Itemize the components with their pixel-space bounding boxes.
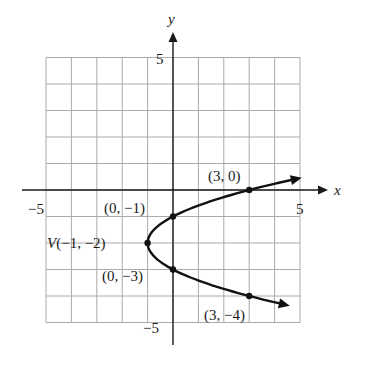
point-3-m4 [246, 293, 252, 299]
x-tick-min: −5 [28, 201, 44, 217]
label-3-0: (3, 0) [208, 168, 241, 185]
x-axis-label: x [333, 182, 341, 198]
x-axis-arrow-icon [318, 186, 328, 195]
vertex-coords: (−1, −2) [56, 235, 105, 252]
point-3-0 [246, 187, 252, 193]
y-axis-arrow-icon [169, 32, 178, 42]
y-tick-min: −5 [143, 320, 159, 336]
y-axis-label: y [166, 11, 175, 27]
parabola-chart: x y −5 5 5 −5 (3, 0) (0, −1) V(−1, −2) (… [0, 0, 365, 376]
point-0-m1 [170, 213, 176, 219]
label-0-m1: (0, −1) [104, 200, 145, 217]
x-tick-max: 5 [296, 201, 304, 217]
label-vertex: V(−1, −2) [47, 235, 106, 252]
curve-lower-arrow-icon [278, 298, 290, 308]
label-0-m3: (0, −3) [102, 268, 143, 285]
point-0-m3 [170, 266, 176, 272]
axes [22, 42, 320, 345]
label-3-m4: (3, −4) [204, 307, 245, 324]
y-tick-max: 5 [156, 51, 164, 67]
parabola-curve [148, 179, 294, 304]
point-vertex [144, 240, 150, 246]
